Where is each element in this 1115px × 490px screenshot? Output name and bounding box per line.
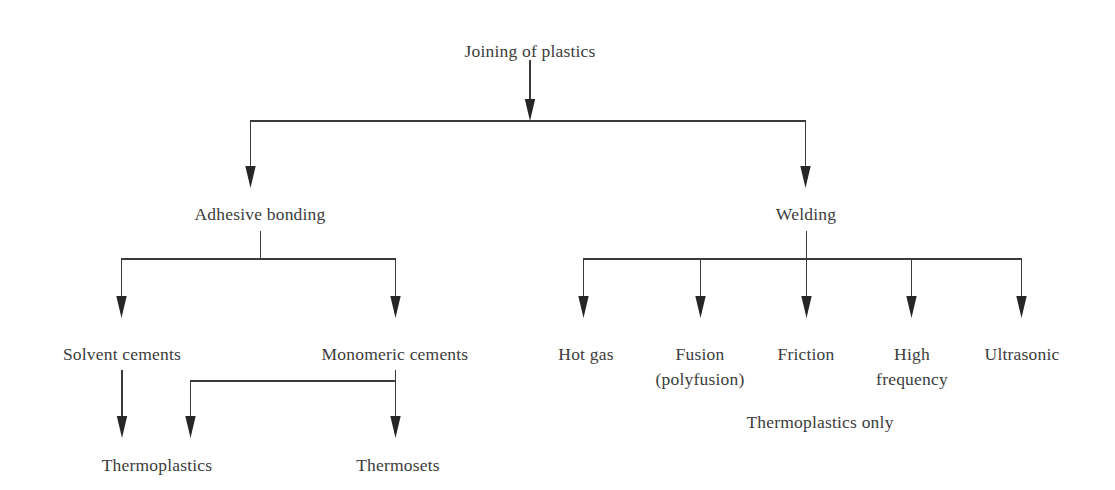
arrow-head-thermoplastics-from-monomeric xyxy=(185,416,195,438)
node-thermoplastics-label: Thermoplastics xyxy=(102,455,213,475)
arrow-head-root xyxy=(525,99,535,121)
node-fusion-label: Fusion xyxy=(676,344,725,364)
arrow-head-high-frequency xyxy=(906,296,916,318)
edge-welding-branch xyxy=(578,231,1026,318)
edge-adhesive-branch xyxy=(116,231,400,318)
flowchart-diagram: Joining of plastics Adhesive bonding Wel… xyxy=(0,0,1115,490)
node-high-frequency-label: High xyxy=(894,344,930,364)
node-hot-gas-label: Hot gas xyxy=(558,344,613,364)
annotation-thermoplastics-only: Thermoplastics only xyxy=(746,412,893,432)
edge-solvent-to-thermoplastics xyxy=(117,370,127,438)
edge-monomeric-branch xyxy=(185,370,400,438)
arrow-head-ultrasonic xyxy=(1016,296,1026,318)
node-adhesive-bonding-label: Adhesive bonding xyxy=(194,204,325,224)
node-welding-label: Welding xyxy=(776,204,836,224)
arrow-head-thermosets xyxy=(390,416,400,438)
arrow-head-thermoplastics-from-solvent xyxy=(117,416,127,438)
node-solvent-cements-label: Solvent cements xyxy=(63,344,181,364)
edge-root-stem xyxy=(525,60,535,121)
node-root-label: Joining of plastics xyxy=(464,41,595,61)
arrow-head-hot-gas xyxy=(578,296,588,318)
arrow-head-solvent-cements xyxy=(116,296,126,318)
node-fusion-label-line2: (polyfusion) xyxy=(656,369,745,389)
arrow-head-monomeric-cements xyxy=(390,296,400,318)
node-ultrasonic-label: Ultrasonic xyxy=(985,344,1060,364)
node-friction-label: Friction xyxy=(777,344,834,364)
joining-of-plastics-flowchart: Joining of plastics Adhesive bonding Wel… xyxy=(0,0,1115,490)
arrow-head-adhesive-bonding xyxy=(245,166,255,188)
arrow-head-friction xyxy=(801,296,811,318)
node-thermosets-label: Thermosets xyxy=(356,455,440,475)
arrow-head-fusion xyxy=(695,296,705,318)
node-high-frequency-label-line2: frequency xyxy=(876,369,948,389)
edge-level1-split xyxy=(245,121,810,188)
node-monomeric-cements-label: Monomeric cements xyxy=(322,344,469,364)
arrow-head-welding xyxy=(800,166,810,188)
